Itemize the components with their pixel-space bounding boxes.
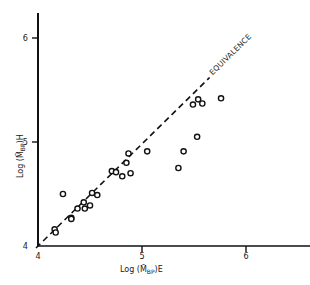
data-point-marker bbox=[95, 192, 100, 197]
x-axis-title: Log (M̄BP)E bbox=[120, 264, 163, 275]
data-point-marker bbox=[60, 191, 65, 196]
data-point-marker bbox=[195, 134, 200, 139]
data-point-marker bbox=[53, 230, 58, 235]
y-tick-label: 6 bbox=[23, 33, 28, 43]
data-point-marker bbox=[126, 151, 131, 156]
data-point-marker bbox=[89, 190, 94, 195]
x-tick-label: 6 bbox=[243, 251, 248, 261]
x-tick-label: 4 bbox=[35, 251, 40, 261]
equivalence-label: EQUIVALENCE bbox=[208, 32, 253, 77]
scatter-chart: EQUIVALENCE 456456Log (M̄BP)ELog (M̄BP)H bbox=[0, 0, 310, 285]
data-point-marker bbox=[81, 200, 86, 205]
data-point-marker bbox=[176, 165, 181, 170]
equivalence-dashed-line bbox=[36, 78, 210, 248]
data-point-marker bbox=[218, 96, 223, 101]
data-point-marker bbox=[124, 160, 129, 165]
data-point-marker bbox=[113, 170, 118, 175]
data-point-marker bbox=[128, 171, 133, 176]
data-point-marker bbox=[82, 206, 87, 211]
equivalence-line: EQUIVALENCE bbox=[36, 32, 253, 248]
data-points bbox=[52, 96, 224, 235]
data-point-marker bbox=[190, 102, 195, 107]
data-point-marker bbox=[200, 101, 205, 106]
data-point-marker bbox=[87, 203, 92, 208]
y-axis-title: Log (M̄BP)H bbox=[15, 134, 26, 178]
data-point-marker bbox=[196, 97, 201, 102]
data-point-marker bbox=[181, 149, 186, 154]
x-tick-label: 5 bbox=[139, 251, 144, 261]
data-point-marker bbox=[120, 174, 125, 179]
data-point-marker bbox=[145, 149, 150, 154]
y-tick-label: 4 bbox=[23, 241, 28, 251]
data-point-marker bbox=[75, 206, 80, 211]
data-point-marker bbox=[69, 216, 74, 221]
